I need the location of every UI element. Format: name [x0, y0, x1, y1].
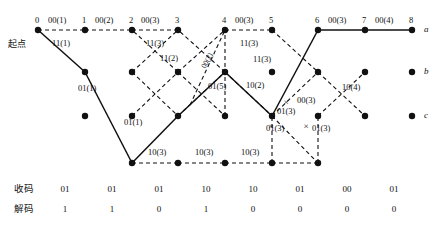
time-index-6: 6: [315, 16, 319, 25]
branch-label-top-3: 00(3): [235, 16, 253, 25]
time-index-5: 5: [269, 16, 273, 25]
state-label-b: b: [424, 67, 429, 76]
received-code-cell-3: 10: [196, 185, 216, 194]
branch-label-mid-6: 10(4): [342, 83, 360, 92]
branch-label-bottom-0: 10(3): [148, 148, 166, 157]
time-index-0: 0: [35, 16, 39, 25]
error-mark-2: ×: [268, 122, 274, 131]
branch-label-top-4: 00(3): [328, 16, 346, 25]
received-code-cell-0: 01: [55, 185, 75, 194]
branch-label-mid-5: 00(3): [297, 96, 315, 105]
error-mark-0: ×: [283, 98, 289, 107]
branch-label-lower-4: 01(3): [277, 107, 295, 116]
dashed-edges: [38, 30, 365, 163]
decoded-cell-6: 0: [337, 205, 357, 214]
trellis-nodes: [35, 27, 415, 166]
branch-label-bottom-1: 10(3): [195, 148, 213, 157]
branch-label-lower-1: 01(1): [124, 118, 142, 127]
received-code-cell-6: 00: [337, 185, 357, 194]
decoded-cell-7: 0: [384, 205, 404, 214]
state-label-c: c: [424, 111, 428, 120]
decoded-cell-5: 0: [290, 205, 310, 214]
time-index-4: 4: [222, 16, 226, 25]
branch-label-mid-4: 11(3): [253, 55, 271, 64]
branch-label-top-2: 00(3): [141, 16, 159, 25]
decoded-cell-0: 1: [55, 205, 75, 214]
branch-label-top-0: 00(1): [48, 16, 66, 25]
branch-label-bottom-2: 10(3): [241, 148, 259, 157]
state-label-a: a: [424, 25, 429, 34]
received-code-cell-5: 01: [290, 185, 310, 194]
received-code-cell-1: 01: [102, 185, 122, 194]
branch-label-mid-0: 11(2): [160, 54, 178, 63]
branch-label-mid-2: 01(5): [208, 82, 226, 91]
error-mark-1: ×: [303, 122, 309, 131]
decoded-cell-4: 0: [243, 205, 263, 214]
time-index-2: 2: [129, 16, 133, 25]
table-row-label-received: 收码: [14, 184, 34, 194]
branch-label-second-2: 11(3): [240, 39, 258, 48]
decoded-cell-2: 0: [149, 205, 169, 214]
time-index-8: 8: [409, 16, 413, 25]
time-index-1: 1: [82, 16, 86, 25]
received-code-cell-2: 01: [149, 185, 169, 194]
branch-label-top-5: 00(4): [375, 16, 393, 25]
decoded-cell-1: 1: [102, 205, 122, 214]
branch-label-lower-0: 01(1): [78, 84, 96, 93]
branch-label-mid-3: 10(2): [246, 81, 264, 90]
received-code-cell-4: 10: [243, 185, 263, 194]
branch-label-second-0: 11(1): [52, 39, 70, 48]
branch-label-lower-3: 01(3): [312, 124, 330, 133]
trellis-figure: 0 1 2 3 4 5 6 7 8 00(1) 00(2) 00(3) 00(3…: [0, 0, 446, 233]
time-index-7: 7: [362, 16, 366, 25]
branch-label-top-1: 00(2): [95, 16, 113, 25]
received-code-cell-7: 01: [384, 185, 404, 194]
time-index-3: 3: [175, 16, 179, 25]
branch-label-second-1: 11(3): [146, 39, 164, 48]
decoded-cell-3: 1: [196, 205, 216, 214]
trellis-graph: [0, 0, 446, 233]
start-point-label: 起点: [8, 40, 26, 49]
table-row-label-decoded: 解码: [14, 204, 34, 214]
